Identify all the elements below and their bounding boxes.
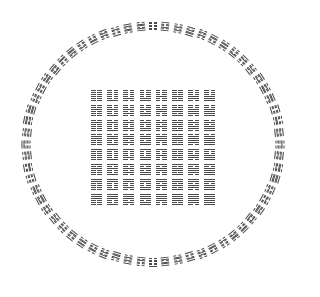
- hexagram-icon: [156, 120, 167, 131]
- hexagram-icon: [91, 179, 102, 190]
- hexagram-icon: [269, 105, 280, 115]
- hexagram-icon: [111, 26, 121, 37]
- hexagram-icon: [172, 105, 183, 116]
- hexagram-icon: [91, 194, 102, 205]
- hexagram-icon: [107, 194, 118, 205]
- hexagram-icon: [188, 179, 199, 190]
- hexagram-icon: [123, 149, 134, 160]
- hexagram-icon: [185, 251, 195, 262]
- hexagram-icon: [172, 179, 183, 190]
- hexagram-icon: [253, 204, 265, 216]
- hexagram-icon: [140, 194, 151, 205]
- hexagram-icon: [30, 184, 41, 195]
- hexagram-icon: [123, 194, 134, 205]
- hexagram-icon: [275, 151, 285, 160]
- hexagram-icon: [265, 93, 276, 104]
- hexagram-icon: [207, 242, 218, 254]
- hexagram-icon: [245, 63, 257, 75]
- hexagram-icon: [23, 162, 33, 172]
- hexagram-icon: [66, 47, 78, 59]
- hexagram-icon: [188, 90, 199, 101]
- hexagram-icon: [107, 120, 118, 131]
- hexagram-icon: [123, 179, 134, 190]
- hexagram-icon: [188, 164, 199, 175]
- hexagram-icon: [196, 247, 207, 258]
- hexagram-icon: [204, 179, 215, 190]
- hexagram-icon: [272, 162, 282, 172]
- hexagram-icon: [107, 164, 118, 175]
- hexagram-icon: [149, 22, 157, 31]
- hexagram-icon: [91, 134, 102, 145]
- hexagram-icon: [204, 194, 215, 205]
- hexagram-icon: [49, 213, 61, 225]
- hexagram-icon: [136, 22, 145, 32]
- hexagram-icon: [77, 40, 89, 52]
- hexagram-icon: [41, 204, 53, 216]
- hexagram-icon: [156, 179, 167, 190]
- hexagram-icon: [140, 134, 151, 145]
- hexagram-icon: [123, 164, 134, 175]
- hexagram-icon: [140, 149, 151, 160]
- hexagram-icon: [156, 149, 167, 160]
- hexagram-icon: [140, 90, 151, 101]
- hexagram-icon: [107, 134, 118, 145]
- hexagram-icon: [253, 73, 265, 85]
- hexagram-icon: [156, 105, 167, 116]
- hexagram-icon: [161, 257, 170, 267]
- hexagram-icon: [26, 173, 37, 183]
- hexagram-icon: [91, 90, 102, 101]
- hexagram-icon: [188, 134, 199, 145]
- hexagram-icon: [161, 22, 170, 32]
- hexagram-icon: [66, 229, 78, 241]
- hexagram-icon: [188, 194, 199, 205]
- hexagram-icon: [49, 63, 61, 75]
- hexagram-icon: [111, 251, 121, 262]
- hexagram-icon: [204, 90, 215, 101]
- hexagram-icon: [140, 179, 151, 190]
- hexagram-icon: [136, 257, 145, 267]
- hexagram-icon: [228, 229, 240, 241]
- hexagram-icon: [156, 90, 167, 101]
- hexagram-icon: [140, 120, 151, 131]
- hexagram-icon: [204, 134, 215, 145]
- hexagram-icon: [26, 105, 37, 115]
- hexagram-icon: [87, 242, 98, 254]
- hexagram-icon: [188, 105, 199, 116]
- hexagram-icon: [237, 55, 249, 67]
- hexagram-icon: [237, 221, 249, 233]
- hexagram-icon: [172, 149, 183, 160]
- hexagram-icon: [156, 164, 167, 175]
- hexagram-icon: [204, 149, 215, 160]
- hexagram-icon: [140, 164, 151, 175]
- hexagram-icon: [123, 90, 134, 101]
- hexagram-icon: [218, 40, 230, 52]
- hexagram-icon: [172, 120, 183, 131]
- hexagram-icon: [185, 26, 195, 37]
- hexagram-icon: [228, 47, 240, 59]
- hexagram-icon: [123, 134, 134, 145]
- hexagram-icon: [57, 55, 69, 67]
- hexagram-icon: [259, 194, 271, 205]
- hexagram-icon: [172, 164, 183, 175]
- hexagram-icon: [204, 120, 215, 131]
- hexagram-icon: [57, 221, 69, 233]
- hexagram-icon: [87, 34, 98, 46]
- hexagram-icon: [77, 236, 89, 248]
- hexagram-icon: [172, 90, 183, 101]
- hexagram-icon: [275, 128, 285, 137]
- hexagram-icon: [35, 194, 47, 205]
- hexagram-icon: [172, 134, 183, 145]
- hexagram-icon: [156, 194, 167, 205]
- hexagram-icon: [22, 140, 31, 148]
- hexagram-icon: [123, 23, 133, 33]
- hexagram-icon: [91, 149, 102, 160]
- hexagram-icon: [107, 105, 118, 116]
- hexagram-icon: [218, 236, 230, 248]
- hexagram-icon: [123, 120, 134, 131]
- hexagram-icon: [123, 105, 134, 116]
- hexagram-icon: [276, 140, 285, 148]
- hexagram-icon: [35, 83, 47, 94]
- hexagram-icon: [91, 164, 102, 175]
- hexagram-icon: [245, 213, 257, 225]
- hexagram-icon: [149, 258, 157, 267]
